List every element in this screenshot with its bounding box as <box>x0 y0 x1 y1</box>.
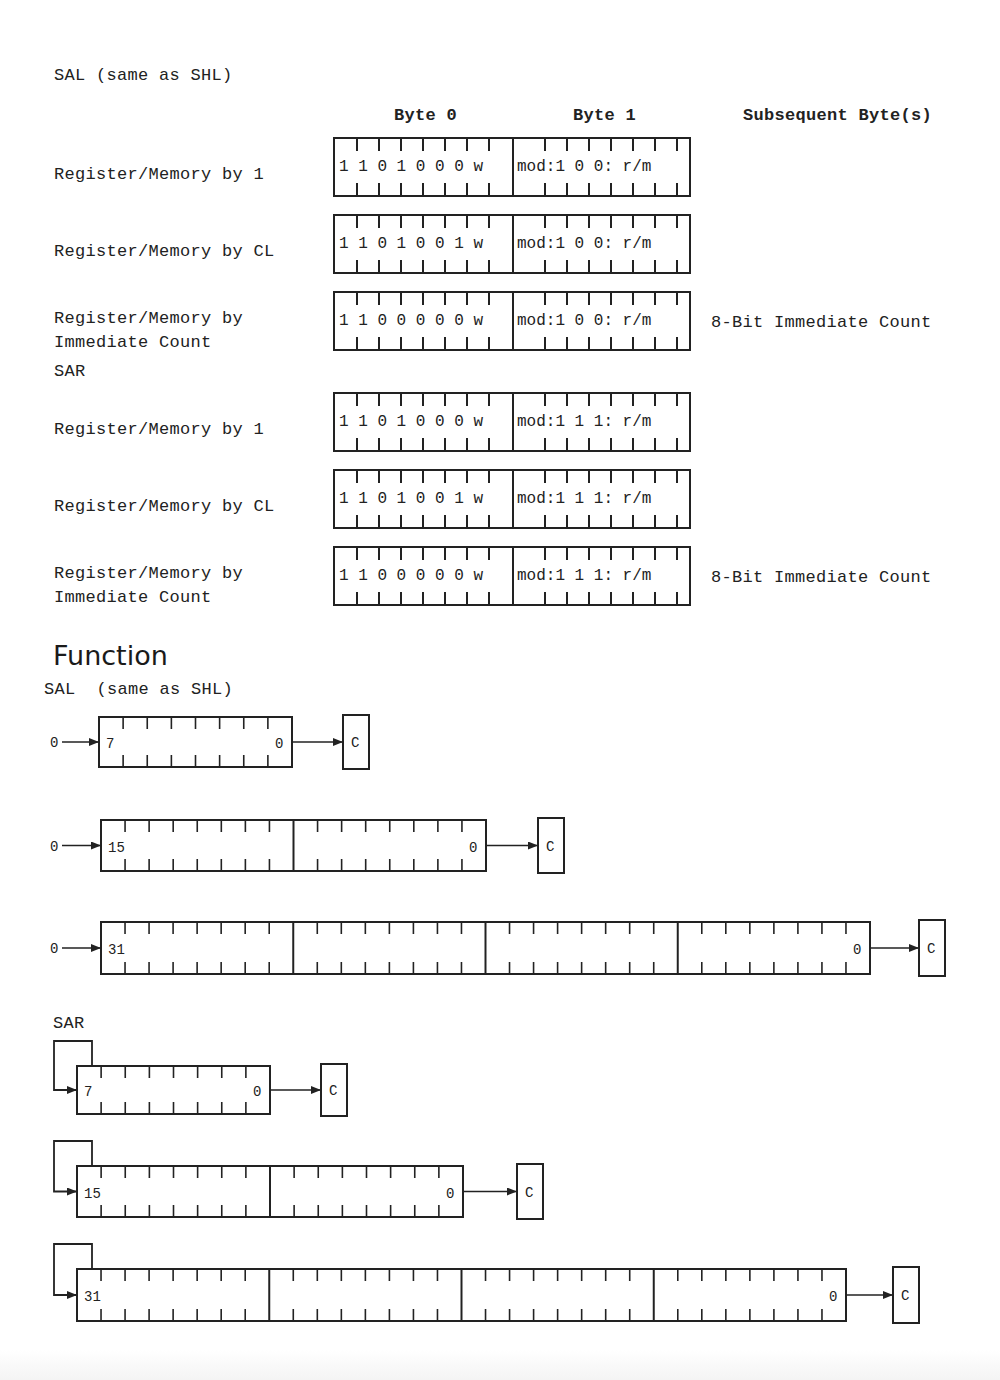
msb-label: 15 <box>108 840 125 856</box>
zero-input-label: 0 <box>50 941 58 957</box>
sal-diagram-32bit: 0310C <box>50 920 945 976</box>
carry-flag-label: C <box>901 1288 909 1304</box>
lsb-label: 0 <box>853 942 861 958</box>
sal-diagram-8bit: 070C <box>50 715 369 769</box>
sar-diagram-16bit: 150C <box>54 1141 543 1219</box>
lsb-label: 0 <box>446 1186 454 1202</box>
carry-flag-label: C <box>329 1083 337 1099</box>
lsb-label: 0 <box>829 1289 837 1305</box>
msb-label: 7 <box>84 1084 92 1100</box>
shift-diagrams: 070C0150C0310C70C150C310C <box>0 0 1000 1380</box>
carry-flag-label: C <box>927 941 935 957</box>
carry-flag-label: C <box>525 1185 533 1201</box>
sar-diagram-8bit: 70C <box>54 1041 347 1116</box>
lsb-label: 0 <box>253 1084 261 1100</box>
sal-diagram-16bit: 0150C <box>50 818 564 873</box>
msb-label: 7 <box>106 736 114 752</box>
msb-label: 31 <box>84 1289 101 1305</box>
msb-label: 15 <box>84 1186 101 1202</box>
zero-input-label: 0 <box>50 735 58 751</box>
carry-flag-label: C <box>351 735 359 751</box>
sar-diagram-32bit: 310C <box>54 1244 919 1323</box>
page-bottom-edge <box>0 1350 1000 1380</box>
lsb-label: 0 <box>469 840 477 856</box>
zero-input-label: 0 <box>50 839 58 855</box>
carry-flag-label: C <box>546 839 554 855</box>
msb-label: 31 <box>108 942 125 958</box>
lsb-label: 0 <box>275 736 283 752</box>
